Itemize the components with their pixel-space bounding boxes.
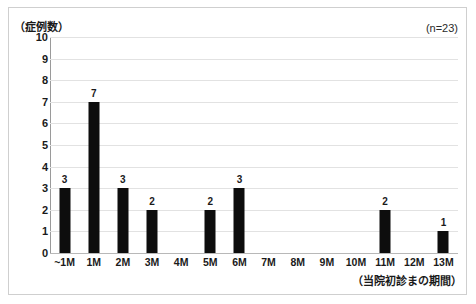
bar-slot: [400, 37, 429, 253]
x-tick-label: 12M: [404, 256, 424, 268]
bar-slot: [254, 37, 283, 253]
bar: [117, 188, 128, 253]
bar: [59, 188, 70, 253]
bar-value-label: 2: [149, 196, 155, 207]
x-tick-label: 11M: [375, 256, 395, 268]
x-tick-label: 4M: [174, 256, 189, 268]
x-tick-label: 6M: [232, 256, 247, 268]
bar-slot: [167, 37, 196, 253]
bar-value-label: 2: [207, 196, 213, 207]
bar-slot: 3: [108, 37, 137, 253]
x-tick-label: 7M: [261, 256, 276, 268]
x-tick-label: 5M: [203, 256, 218, 268]
bar: [146, 210, 157, 253]
bar: [88, 102, 99, 253]
bar-value-label: 1: [441, 217, 447, 228]
sample-size-annotation: (n=23): [426, 22, 458, 34]
y-tick-label: 8: [4, 74, 48, 86]
bar: [205, 210, 216, 253]
y-axis-tick-labels: 109876543210: [0, 0, 48, 304]
bar-slot: 1: [429, 37, 458, 253]
y-tick-label: 2: [4, 204, 48, 216]
plot-area: 37322321: [50, 37, 458, 253]
bars-layer: 37322321: [50, 37, 458, 253]
x-axis-title: （当院初診まの期間）: [352, 272, 462, 288]
y-tick-label: 3: [4, 182, 48, 194]
bar-slot: 7: [79, 37, 108, 253]
bar: [380, 210, 391, 253]
y-tick-label: 1: [4, 225, 48, 237]
bar: [234, 188, 245, 253]
x-tick-label: 13M: [433, 256, 453, 268]
y-tick-label: 4: [4, 161, 48, 173]
bar-slot: [341, 37, 370, 253]
bar-value-label: 7: [91, 88, 97, 99]
x-tick-label: 8M: [290, 256, 305, 268]
x-tick-label: 3M: [145, 256, 160, 268]
gridline: [50, 253, 458, 254]
y-tick-label: 7: [4, 96, 48, 108]
y-tick-label: 6: [4, 117, 48, 129]
bar: [438, 231, 449, 253]
y-tick-label: 9: [4, 53, 48, 65]
bar-slot: [312, 37, 341, 253]
bar-value-label: 3: [62, 174, 68, 185]
chart-figure: （症例数） (n=23) 109876543210 37322321 ~1M1M…: [0, 0, 476, 304]
x-tick-label: 10M: [346, 256, 366, 268]
bar-value-label: 3: [237, 174, 243, 185]
x-tick-label: 1M: [86, 256, 101, 268]
bar-value-label: 3: [120, 174, 126, 185]
bar-slot: 2: [196, 37, 225, 253]
x-tick-label: 2M: [116, 256, 131, 268]
y-tick-label: 0: [4, 247, 48, 259]
y-tick-label: 10: [4, 31, 48, 43]
bar-slot: 3: [225, 37, 254, 253]
bar-slot: 3: [50, 37, 79, 253]
bar-slot: 2: [137, 37, 166, 253]
bar-slot: 2: [371, 37, 400, 253]
bar-slot: [283, 37, 312, 253]
x-tick-label: ~1M: [54, 256, 75, 268]
y-tick-label: 5: [4, 139, 48, 151]
bar-value-label: 2: [382, 196, 388, 207]
x-tick-label: 9M: [320, 256, 335, 268]
